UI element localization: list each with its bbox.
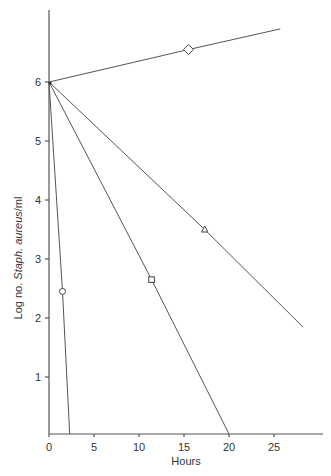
y-axis-label-suffix: /ml [12,197,24,212]
y-tick-label: 4 [35,194,41,206]
markers-group [48,45,208,295]
x-tick-label: 15 [178,441,190,453]
line-chart: 1234560510152025 Hours Log no. Staph. au… [0,0,331,476]
origin-point [48,81,51,84]
square-marker-icon [149,277,155,283]
x-tick-label: 0 [46,441,52,453]
y-axis-label-italic: Staph. aureus [12,211,24,280]
y-tick-label: 1 [35,371,41,383]
x-tick-label: 25 [268,441,280,453]
chart-container: 1234560510152025 Hours Log no. Staph. au… [0,0,331,476]
x-tick-label: 10 [133,441,145,453]
diamond-marker-icon [184,45,194,55]
series-line-triangle [49,82,303,327]
y-tick-label: 3 [35,253,41,265]
series-line-circle [49,82,70,434]
series-group [49,29,303,434]
y-axis-label-prefix: Log no. [12,280,24,320]
series-line-square [49,82,229,434]
y-axis-label: Log no. Staph. aureus/ml [12,197,24,320]
x-tick-label: 5 [91,441,97,453]
y-tick-label: 5 [35,135,41,147]
axes: 1234560510152025 [35,10,323,453]
y-tick-label: 6 [35,76,41,88]
x-tick-label: 20 [223,441,235,453]
circle-marker-icon [60,288,66,294]
y-tick-label: 2 [35,312,41,324]
x-axis-label: Hours [171,455,201,467]
series-line-diamond [49,29,280,82]
